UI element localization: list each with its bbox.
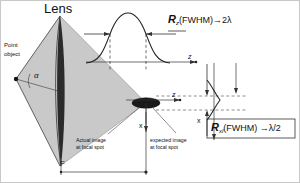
- axial-formula-symbol: R: [168, 13, 176, 25]
- point-object-label-line2: object: [4, 51, 20, 57]
- optics-psf-figure: Lens Point object α F Actual image at fo…: [0, 0, 300, 183]
- point-object-label-line1: Point: [4, 42, 18, 48]
- axis-label-x-bottom: x: [139, 122, 143, 129]
- lateral-formula-value: λ/2: [269, 123, 281, 133]
- lateral-formula-arrow: →: [260, 123, 269, 133]
- axial-formula-body: (FWHM): [179, 15, 213, 25]
- expected-image-caption-line1: expected image: [150, 138, 187, 143]
- axis-label-z-mid: z: [172, 91, 176, 98]
- lateral-formula-body: (FWHM): [223, 123, 257, 133]
- actual-image-caption-line1: Actual image: [76, 138, 106, 143]
- actual-image-caption-line2: at focal spot: [76, 145, 104, 150]
- axial-formula-value: 2λ: [222, 15, 232, 25]
- focal-distance-label: F: [60, 160, 65, 168]
- focal-guide-lines: [156, 96, 246, 110]
- figure-canvas: [0, 0, 300, 183]
- axis-label-x-right: x: [197, 117, 201, 124]
- expected-image-caption-line2: at focal spot: [150, 145, 178, 150]
- lateral-formula-symbol: R: [211, 121, 219, 133]
- lateral-fwhm-formula: Rxl(FWHM) →λ/2: [211, 122, 281, 134]
- axial-fwhm-formula: Rz(FWHM)→2λ: [168, 14, 231, 26]
- alpha-angle-label: α: [34, 72, 39, 80]
- axial-formula-arrow: →: [213, 15, 222, 25]
- axis-label-z-top: z: [188, 53, 192, 60]
- point-object-dot: [14, 77, 18, 81]
- lens-title: Lens: [44, 2, 72, 16]
